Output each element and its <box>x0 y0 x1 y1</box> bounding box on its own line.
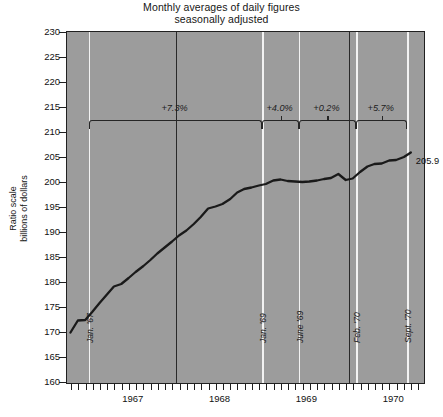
growth-bracket-stem-2 <box>327 116 328 120</box>
x-tick-month-20 <box>216 384 217 390</box>
series-line-0 <box>70 153 410 333</box>
x-tick-month-30 <box>288 384 289 390</box>
y-tick-label-215: 215 <box>20 102 60 112</box>
y-tick-170 <box>59 332 66 333</box>
x-tick-month-4 <box>100 384 101 390</box>
y-tick-210 <box>59 132 66 133</box>
y-tick-label-205: 205 <box>20 152 60 162</box>
x-tick-month-28 <box>274 384 275 390</box>
x-axis-label-1967: 1967 <box>103 394 163 404</box>
x-tick-month-21 <box>223 384 224 390</box>
x-tick-month-22 <box>230 384 231 390</box>
y-tick-205 <box>59 157 66 158</box>
x-tick-month-40 <box>361 384 362 390</box>
x-tick-month-31 <box>295 384 296 390</box>
y-tick-185 <box>59 257 66 258</box>
x-tick-month-15 <box>180 384 181 390</box>
growth-label-0: +7.3% <box>145 104 205 114</box>
x-tick-month-26 <box>259 384 260 390</box>
x-tick-month-19 <box>209 384 210 390</box>
x-tick-month-10 <box>143 384 144 390</box>
plot-area <box>66 31 425 384</box>
growth-bracket-stem-3 <box>382 116 383 120</box>
x-tick-month-33 <box>310 384 311 390</box>
y-tick-220 <box>59 82 66 83</box>
x-tick-month-17 <box>194 384 195 390</box>
y-tick-label-190: 190 <box>20 227 60 237</box>
x-tick-month-12 <box>158 384 159 390</box>
growth-bracket-1 <box>262 120 298 129</box>
growth-bracket-3 <box>356 120 407 129</box>
y-tick-label-225: 225 <box>20 52 60 62</box>
x-tick-month-37 <box>339 384 340 390</box>
x-axis-label-1968: 1968 <box>190 394 250 404</box>
y-tick-175 <box>59 307 66 308</box>
growth-bracket-stem-1 <box>281 116 282 120</box>
series-layer <box>67 32 423 382</box>
growth-label-3: +5.7% <box>351 104 411 114</box>
event-label-4: Sept. '70 <box>404 309 413 343</box>
y-tick-215 <box>59 107 66 108</box>
x-tick-month-46 <box>404 384 405 390</box>
event-label-1: Jan. '69 <box>259 313 268 343</box>
y-tick-label-170: 170 <box>20 327 60 337</box>
x-tick-month-7 <box>122 384 123 390</box>
x-tick-month-44 <box>389 384 390 390</box>
x-tick-month-3 <box>93 384 94 390</box>
x-tick-month-5 <box>107 384 108 390</box>
event-label-0: Jan. '67 <box>86 313 95 343</box>
x-tick-month-25 <box>252 384 253 390</box>
x-tick-month-8 <box>129 384 130 390</box>
x-tick-month-32 <box>303 384 304 390</box>
x-tick-month-34 <box>317 384 318 390</box>
plot-inner <box>67 32 424 383</box>
y-tick-190 <box>59 232 66 233</box>
x-axis-label-1969: 1969 <box>276 394 336 404</box>
x-tick-month-23 <box>237 384 238 390</box>
x-tick-month-14 <box>172 384 173 390</box>
y-tick-label-200: 200 <box>20 177 60 187</box>
y-tick-200 <box>59 182 66 183</box>
x-tick-month-42 <box>375 384 376 390</box>
x-tick-month-0 <box>71 384 72 390</box>
x-tick-month-13 <box>165 384 166 390</box>
y-tick-label-210: 210 <box>20 127 60 137</box>
y-tick-label-180: 180 <box>20 277 60 287</box>
chart-title: Monthly averages of daily figures season… <box>0 2 443 25</box>
x-tick-month-48 <box>418 384 419 390</box>
x-tick-month-35 <box>324 384 325 390</box>
y-tick-180 <box>59 282 66 283</box>
x-tick-month-41 <box>368 384 369 390</box>
y-tick-165 <box>59 357 66 358</box>
x-tick-month-43 <box>382 384 383 390</box>
x-tick-month-6 <box>114 384 115 390</box>
y-tick-label-220: 220 <box>20 77 60 87</box>
source-note <box>36 409 436 416</box>
y-tick-230 <box>59 32 66 33</box>
x-tick-month-9 <box>136 384 137 390</box>
chart-title-line1: Monthly averages of daily figures <box>143 1 300 13</box>
y-tick-label-160: 160 <box>20 377 60 387</box>
x-tick-month-27 <box>266 384 267 390</box>
event-label-3: Feb. '70 <box>353 312 362 343</box>
x-tick-month-39 <box>353 384 354 390</box>
x-tick-month-1 <box>78 384 79 390</box>
x-tick-month-16 <box>187 384 188 390</box>
event-label-2: June '69 <box>296 311 305 343</box>
x-tick-month-36 <box>332 384 333 390</box>
y-axis-title-line1: Ratio scale <box>8 159 19 259</box>
growth-bracket-2 <box>299 120 356 129</box>
y-tick-label-185: 185 <box>20 252 60 262</box>
y-tick-label-165: 165 <box>20 352 60 362</box>
growth-label-2: +0.2% <box>296 104 356 114</box>
y-tick-label-195: 195 <box>20 202 60 212</box>
y-tick-160 <box>59 382 66 383</box>
y-tick-195 <box>59 207 66 208</box>
chart-title-line2: seasonally adjusted <box>0 14 443 26</box>
x-tick-month-2 <box>86 384 87 390</box>
y-tick-label-230: 230 <box>20 27 60 37</box>
x-tick-month-29 <box>281 384 282 390</box>
y-tick-label-175: 175 <box>20 302 60 312</box>
growth-bracket-0 <box>89 120 263 129</box>
y-tick-225 <box>59 57 66 58</box>
